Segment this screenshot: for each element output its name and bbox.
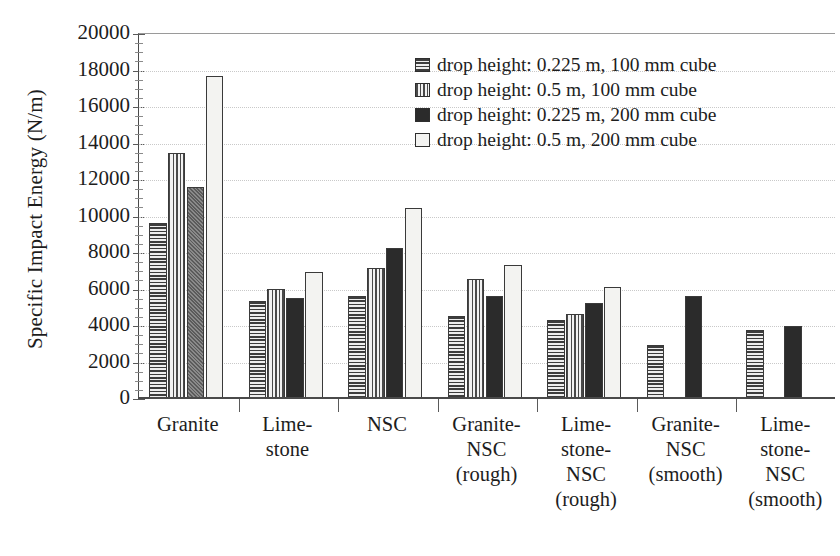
y-axis-minor-tick xyxy=(135,335,143,336)
y-tick-label: 4000 xyxy=(88,314,130,335)
y-axis-minor-tick xyxy=(135,235,143,236)
bar xyxy=(604,287,622,398)
bar xyxy=(504,265,522,398)
x-tick-label-line: Granite xyxy=(138,412,238,437)
y-tick-label: 8000 xyxy=(88,241,130,262)
x-tick-label: Lime-stone-NSC(rough) xyxy=(536,412,636,512)
legend-swatch-solid-black-icon xyxy=(415,108,430,122)
x-tick-label-line: stone- xyxy=(536,437,636,462)
group-separator-tick xyxy=(637,399,638,412)
y-axis-minor-tick xyxy=(135,244,143,245)
y-tick-label: 6000 xyxy=(88,278,130,299)
x-tick-label-line: NSC xyxy=(536,462,636,487)
legend-item: drop height: 0.225 m, 100 mm cube xyxy=(415,52,815,77)
y-tick-label: 10000 xyxy=(78,205,131,226)
y-axis-minor-tick xyxy=(135,207,143,208)
x-tick-label-line: NSC xyxy=(636,437,736,462)
legend-label: drop height: 0.225 m, 100 mm cube xyxy=(437,54,716,76)
y-axis-minor-tick xyxy=(135,372,143,373)
y-axis-minor-tick xyxy=(135,52,143,53)
y-tick-label: 12000 xyxy=(78,168,131,189)
y-axis-minor-tick xyxy=(135,299,143,300)
x-tick-label: NSC xyxy=(337,412,437,437)
group-separator-tick xyxy=(338,399,339,412)
x-tick-label-line: stone xyxy=(238,437,338,462)
x-tick-label-line: stone- xyxy=(735,437,835,462)
y-axis-minor-tick xyxy=(135,198,143,199)
legend-label: drop height: 0.5 m, 200 mm cube xyxy=(437,129,697,151)
legend-label: drop height: 0.225 m, 200 mm cube xyxy=(437,104,716,126)
legend-swatch-horizontal-lines-icon xyxy=(415,58,430,72)
y-axis-major-tick xyxy=(133,399,145,400)
x-tick-label: Granite xyxy=(138,412,238,437)
y-axis-minor-tick xyxy=(135,390,143,391)
y-tick-label: 2000 xyxy=(88,351,130,372)
y-axis-minor-tick xyxy=(135,98,143,99)
gridline xyxy=(139,290,835,291)
bar xyxy=(746,330,764,398)
bar xyxy=(547,320,565,398)
x-axis-baseline xyxy=(138,397,835,399)
legend-item: drop height: 0.5 m, 100 mm cube xyxy=(415,77,815,102)
bar xyxy=(585,303,603,398)
y-axis-tick-labels: 0200040006000800010000120001400016000180… xyxy=(38,0,130,420)
y-axis-minor-tick xyxy=(135,153,143,154)
gridline xyxy=(139,217,835,218)
y-axis-minor-tick xyxy=(135,61,143,62)
y-axis-minor-tick xyxy=(135,89,143,90)
y-axis-minor-tick xyxy=(135,189,143,190)
legend-swatch-white-icon xyxy=(415,133,430,147)
y-axis-minor-tick xyxy=(135,308,143,309)
x-tick-label-line: NSC xyxy=(437,437,537,462)
y-tick-label: 0 xyxy=(120,387,131,408)
bar xyxy=(486,296,504,398)
legend-item: drop height: 0.5 m, 200 mm cube xyxy=(415,127,815,152)
bar xyxy=(405,208,423,398)
y-axis-minor-tick xyxy=(135,116,143,117)
x-tick-label-line: Lime- xyxy=(238,412,338,437)
x-tick-label: Granite-NSC(rough) xyxy=(437,412,537,487)
y-axis-minor-tick xyxy=(135,171,143,172)
chart-legend: drop height: 0.225 m, 100 mm cubedrop he… xyxy=(415,52,815,152)
bar xyxy=(305,272,323,398)
y-axis-minor-tick xyxy=(135,262,143,263)
y-axis-minor-tick xyxy=(135,271,143,272)
legend-label: drop height: 0.5 m, 100 mm cube xyxy=(437,79,697,101)
bar xyxy=(267,289,285,399)
bar xyxy=(566,314,584,398)
bar xyxy=(249,301,267,398)
y-axis-minor-tick xyxy=(135,344,143,345)
bar xyxy=(367,268,385,398)
y-tick-label: 16000 xyxy=(78,95,131,116)
x-tick-label: Lime-stone-NSC(smooth) xyxy=(735,412,835,512)
bar xyxy=(206,76,224,398)
x-tick-label-line: Granite- xyxy=(636,412,736,437)
gridline xyxy=(139,180,835,181)
legend-swatch-vertical-lines-icon xyxy=(415,83,430,97)
legend-item: drop height: 0.225 m, 200 mm cube xyxy=(415,102,815,127)
x-tick-label-line: (smooth) xyxy=(735,487,835,512)
x-tick-label: Granite-NSC(smooth) xyxy=(636,412,736,487)
bar xyxy=(168,153,186,398)
x-axis-tick-labels: GraniteLime-stoneNSCGranite-NSC(rough)Li… xyxy=(138,412,835,556)
gridline xyxy=(139,253,835,254)
bar xyxy=(149,223,167,398)
bar xyxy=(685,296,703,398)
x-tick-label-line: (rough) xyxy=(437,462,537,487)
y-axis-minor-tick xyxy=(135,353,143,354)
x-tick-label-line: (rough) xyxy=(536,487,636,512)
bar xyxy=(448,316,466,398)
y-axis-minor-tick xyxy=(135,317,143,318)
y-tick-label: 18000 xyxy=(78,59,131,80)
y-axis-minor-tick xyxy=(135,134,143,135)
group-separator-tick xyxy=(239,399,240,412)
bar xyxy=(286,298,304,398)
x-tick-label-line: Lime- xyxy=(536,412,636,437)
x-tick-label: Lime-stone xyxy=(238,412,338,462)
bar xyxy=(386,248,404,398)
bar xyxy=(647,345,665,398)
group-separator-tick xyxy=(438,399,439,412)
group-separator-tick xyxy=(537,399,538,412)
group-separator-tick xyxy=(736,399,737,412)
y-axis-minor-tick xyxy=(135,226,143,227)
